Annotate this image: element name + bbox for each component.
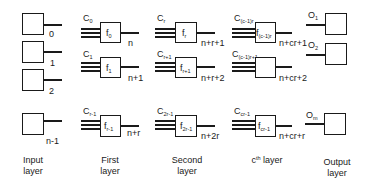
second-node-2r-1-f-label: f2r-1 [180, 121, 192, 132]
first-node-r-1-c-label: Cr-1 [83, 106, 96, 117]
second-node-r+1-out-line [196, 66, 215, 68]
cth-node-1 [255, 57, 276, 78]
first-node-r-1-out-line [120, 125, 139, 127]
cth-node-1-out-line [275, 66, 292, 68]
input-node-n-1 [22, 113, 44, 135]
first-node-1-in-line-2 [81, 66, 101, 68]
second-node-r-c-label: Cr [157, 13, 165, 24]
output-node-m-label: Om [306, 110, 318, 121]
cth-layer-caption: cth layer [242, 155, 292, 167]
first-node-r-1-in-line-1 [81, 120, 101, 122]
first-node-1-out-line [120, 66, 139, 68]
second-node-2r-1-c-label: C2r-1 [157, 106, 173, 117]
cth-node-0-in-line-2 [232, 32, 256, 34]
input-node-1 [22, 41, 44, 63]
cth-node-2-f-label: fcr-1 [258, 121, 270, 132]
cth-node-1-in-line-1 [232, 62, 256, 64]
second-node-2r-1-in-line-2 [155, 124, 176, 126]
input-node-0-label: 0 [49, 29, 54, 39]
first-node-1-in-line-3 [81, 70, 101, 72]
first-node-r-1-out-label: n+r [127, 128, 140, 138]
cth-node-0-c-label: C(c-1)r [234, 13, 254, 24]
second-node-r+1-out-label: n+r+2 [201, 73, 225, 83]
input-layer-caption: Input layer [8, 155, 58, 177]
cth-node-1-in-line-2 [232, 66, 256, 68]
second-node-r+1-f-label: fr+1 [180, 63, 191, 74]
cth-node-1-in-line-3 [232, 70, 256, 72]
first-node-0-out-label: n [128, 38, 133, 48]
output-layer-caption: Output layer [312, 157, 362, 179]
first-node-0-out-line [120, 32, 139, 34]
input-node-n-1-line [43, 120, 62, 122]
first-layer-caption: First layer [85, 155, 135, 177]
first-node-0-in-line-1 [81, 28, 101, 30]
second-node-r-out-line [196, 32, 215, 34]
cth-node-2-out-label: n+cr+r [279, 131, 305, 141]
second-node-r-in-line-1 [155, 28, 176, 30]
second-node-2r-1-out-line [196, 125, 215, 127]
first-node-r-1-f-label: fr-1 [104, 121, 113, 132]
second-node-r+1-in-line-1 [155, 62, 176, 64]
cth-node-2-in-line-3 [232, 128, 256, 130]
second-node-r+1-in-line-3 [155, 70, 176, 72]
first-node-0-in-line-2 [81, 32, 101, 34]
input-node-0-line [43, 24, 62, 26]
input-node-2-line [43, 79, 62, 81]
input-node-1-label: 1 [50, 58, 55, 68]
first-node-0-c-label: C0 [83, 13, 93, 24]
cth-node-2-in-line-1 [232, 120, 256, 122]
output-node-2-line [306, 54, 326, 56]
first-node-1-in-line-1 [81, 62, 101, 64]
output-node-1-label: O1 [308, 10, 318, 21]
first-node-r-1-in-line-2 [81, 124, 101, 126]
first-node-1-c-label: C1 [83, 49, 93, 60]
cth-node-0-out-line [275, 32, 292, 34]
input-node-1-line [43, 51, 62, 53]
first-node-1-out-label: n+1 [128, 73, 143, 83]
cth-node-0-out-label: n+cr+1 [279, 38, 307, 48]
input-node-2 [22, 69, 44, 91]
output-node-2-label: O2 [308, 40, 318, 51]
second-layer-caption: Second layer [162, 155, 212, 177]
second-node-2r-1-in-line-3 [155, 128, 176, 130]
cth-node-2-out-line [275, 125, 292, 127]
cth-node-1-out-label: n+cr+2 [279, 73, 307, 83]
cth-node-2-in-line-2 [232, 124, 256, 126]
cth-node-0-in-line-1 [232, 28, 256, 30]
output-node-m [324, 113, 346, 135]
output-node-2 [325, 43, 347, 65]
input-node-0 [22, 13, 44, 35]
second-node-r-out-label: n+r+1 [201, 38, 225, 48]
cth-node-0-in-line-3 [232, 36, 256, 38]
second-node-r-f-label: fr [182, 28, 186, 39]
input-node-2-label: 2 [49, 86, 54, 96]
first-node-0-f-label: f0 [106, 28, 112, 39]
second-node-2r-1-out-label: n+2r [201, 131, 219, 141]
output-node-1 [325, 13, 347, 35]
second-node-r-in-line-2 [155, 32, 176, 34]
second-node-r+1-c-label: Cr+1 [157, 49, 172, 60]
cth-node-2-c-label: Ccr-1 [234, 106, 250, 117]
first-node-1-f-label: f1 [106, 63, 112, 74]
input-node-n-1-label: n-1 [46, 136, 59, 146]
first-node-r-1-in-line-3 [81, 128, 101, 130]
second-node-r+1-in-line-2 [155, 66, 176, 68]
first-node-0-in-line-3 [81, 36, 101, 38]
second-node-r-in-line-3 [155, 36, 176, 38]
output-node-1-line [306, 24, 326, 26]
output-node-m-line [305, 123, 325, 125]
cth-node-0-f-label: f(c-1)r [256, 28, 272, 39]
second-node-2r-1-in-line-1 [155, 120, 176, 122]
